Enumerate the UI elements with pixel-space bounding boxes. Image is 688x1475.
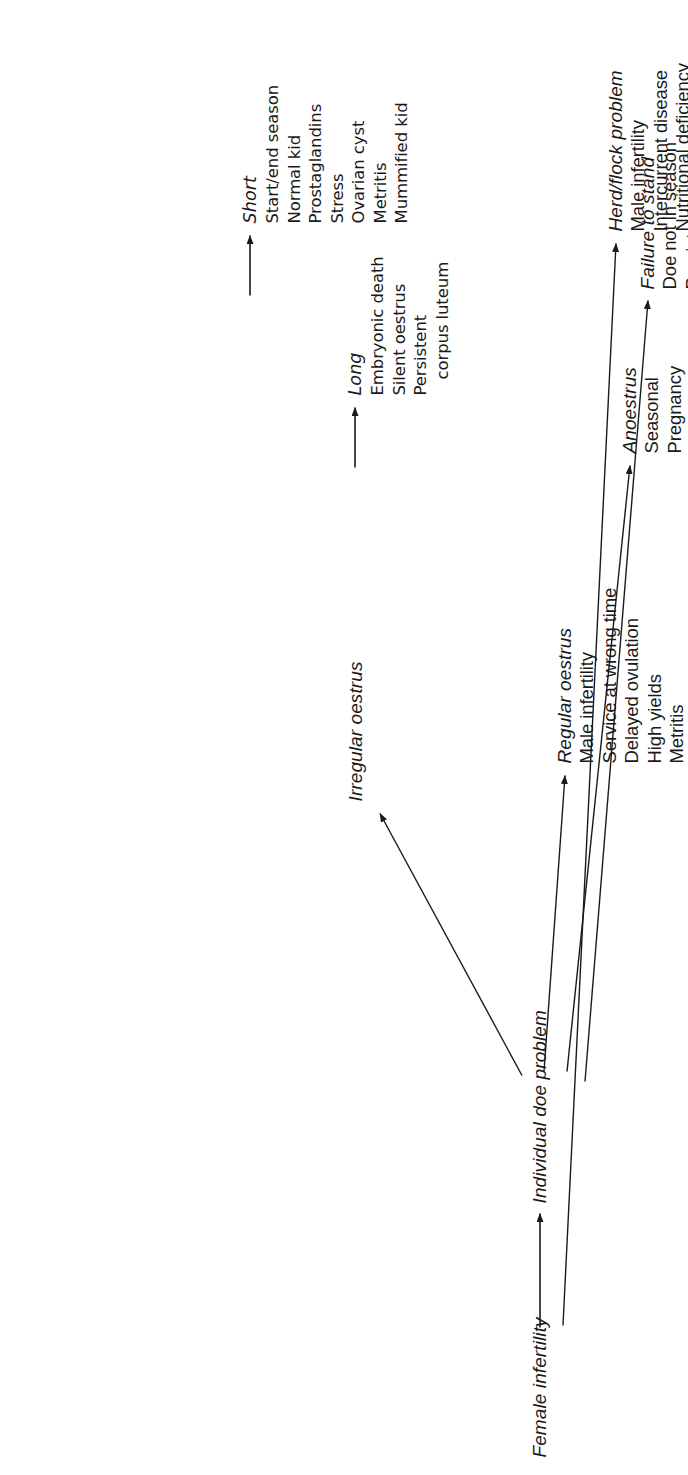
node-herd-flock-problem-label: Herd/flock problem [604, 63, 627, 232]
node-long-label: Long [344, 256, 367, 395]
node-long: Long Embryonic deathSilent oestrusPersis… [344, 256, 453, 395]
list-item: Stress [327, 84, 349, 223]
diagram-canvas: Female infertility Individual doe proble… [0, 0, 688, 1475]
edge-individual-to-irregular [380, 813, 522, 1075]
node-short-items: Start/end seasonNormal kidProstaglandins… [262, 84, 413, 223]
edge-root-to-herd [563, 243, 616, 1325]
list-item: Doe not in season [659, 142, 682, 289]
list-item: High yields [644, 553, 667, 763]
node-anoestrus: Anoestrus SeasonalPregnancyPoor heatdete… [618, 343, 688, 453]
node-individual-doe-problem-label: Individual doe problem [528, 1010, 551, 1203]
node-individual-doe-problem: Individual doe problem [528, 1010, 551, 1203]
node-short: Short Start/end seasonNormal kidProstagl… [239, 84, 413, 223]
list-item: Start/end season [262, 84, 284, 223]
list-item: Persistent [410, 256, 432, 395]
list-item: Male infertility [576, 553, 599, 763]
list-item: Embryonic death [367, 256, 389, 395]
node-regular-oestrus-label: Regular oestrus [553, 553, 576, 763]
list-item: Ovarian cyst [348, 84, 370, 223]
node-anoestrus-label: Anoestrus [618, 343, 641, 453]
node-failure-to-stand-items: Doe not in seasonPersistent hymenVaginal… [659, 142, 688, 289]
node-long-items: Embryonic deathSilent oestrusPersistentc… [367, 256, 453, 395]
list-item: Seasonal [641, 343, 664, 453]
list-item: Persistent hymen [682, 142, 688, 289]
node-irregular-oestrus-label: Irregular oestrus [344, 661, 367, 801]
list-item: Pregnancy [664, 343, 687, 453]
list-item: Metritis [370, 84, 392, 223]
node-female-infertility-label: Female infertility [528, 1317, 551, 1457]
list-item: Service at wrong time [599, 553, 622, 763]
node-anoestrus-items: SeasonalPregnancyPoor heatdetectionMalnu… [641, 343, 688, 453]
node-short-label: Short [239, 84, 262, 223]
list-item: Normal kid [284, 84, 306, 223]
node-female-infertility: Female infertility [528, 1317, 551, 1457]
node-irregular-oestrus: Irregular oestrus [344, 661, 367, 801]
node-failure-to-stand: Failure to stand Doe not in seasonPersis… [636, 142, 688, 289]
node-regular-oestrus-items: Male infertilityService at wrong timeDel… [576, 553, 688, 763]
list-item: Delayed ovulation [621, 553, 644, 763]
list-item: Metritis [666, 553, 688, 763]
list-item: Prostaglandins [305, 84, 327, 223]
list-item: Silent oestrus [389, 256, 411, 395]
node-failure-to-stand-label: Failure to stand [636, 142, 659, 289]
node-regular-oestrus: Regular oestrus Male infertilityService … [553, 553, 688, 763]
list-item: Mummified kid [391, 84, 413, 223]
list-item: corpus luteum [432, 256, 454, 395]
